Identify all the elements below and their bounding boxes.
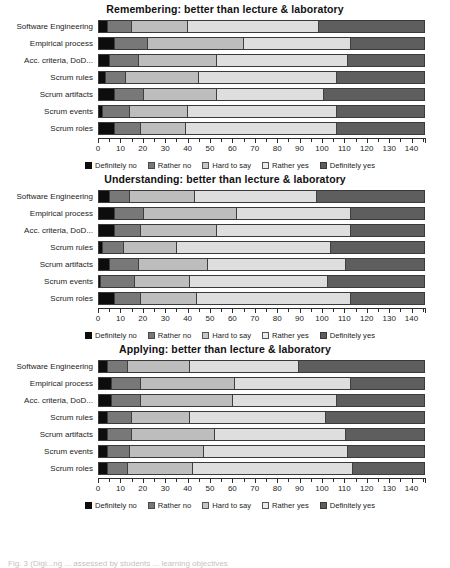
legend-item[interactable]: Definitely yes: [320, 161, 375, 170]
legend-item[interactable]: Definitely no: [85, 331, 137, 340]
legend-item[interactable]: Rather yes: [262, 501, 309, 510]
legend-item[interactable]: Definitely no: [85, 501, 137, 510]
stacked-bar[interactable]: [98, 445, 425, 458]
bar-row: Scrum roles: [0, 291, 450, 306]
axis-tick: [356, 478, 357, 482]
bar-segment-hard-to-say: [141, 395, 232, 406]
axis-tick: [98, 308, 99, 313]
bar-segment-hard-to-say: [139, 259, 208, 270]
stacked-bar[interactable]: [98, 275, 425, 288]
bar-segment-hard-to-say: [132, 412, 190, 423]
bar-segment-hard-to-say: [139, 55, 217, 66]
bar-row: Scrum roles: [0, 461, 450, 476]
bar-track: [98, 275, 428, 288]
bar-segment-rather-yes: [235, 378, 351, 389]
bar-row: Scrum events: [0, 104, 450, 119]
legend-item[interactable]: Rather no: [148, 501, 191, 510]
stacked-bar[interactable]: [98, 207, 425, 220]
axis-spacer: [0, 478, 98, 500]
bar-segment-definitely-yes: [328, 276, 424, 287]
stacked-bar[interactable]: [98, 360, 425, 373]
legend-label: Rather no: [158, 161, 191, 170]
axis-tick: [143, 478, 144, 483]
legend-item[interactable]: Hard to say: [202, 161, 251, 170]
stacked-bar[interactable]: [98, 37, 425, 50]
legend-item[interactable]: Definitely no: [85, 161, 137, 170]
stacked-bar[interactable]: [98, 105, 425, 118]
axis-tick: [367, 478, 368, 483]
axis-tick: [311, 138, 312, 142]
stacked-bar[interactable]: [98, 428, 425, 441]
legend-item[interactable]: Definitely yes: [320, 331, 375, 340]
axis-tick-label: 60: [228, 314, 237, 323]
category-label: Scrum artifacts: [0, 90, 98, 100]
bar-segment-definitely-yes: [319, 21, 424, 32]
stacked-bar[interactable]: [98, 190, 425, 203]
axis-tick: [400, 478, 401, 482]
bar-segment-definitely-no: [99, 429, 108, 440]
axis-tick-label: 50: [206, 144, 215, 153]
bar-segment-rather-yes: [199, 72, 337, 83]
axis-tick: [367, 138, 368, 143]
stacked-bar[interactable]: [98, 241, 425, 254]
legend-item[interactable]: Definitely yes: [320, 501, 375, 510]
axis-tick: [356, 308, 357, 312]
bar-segment-rather-no: [112, 378, 141, 389]
stacked-bar[interactable]: [98, 224, 425, 237]
category-label: Scrum artifacts: [0, 260, 98, 270]
axis-tick-label: 120: [360, 314, 373, 323]
x-axis: 0102030405060708090100110120130140: [0, 478, 450, 500]
axis-tick: [277, 308, 278, 313]
axis-tick: [176, 138, 177, 142]
bar-track: [98, 88, 428, 101]
axis-tick: [344, 308, 345, 313]
bar-segment-definitely-yes: [346, 259, 424, 270]
bar-row: Scrum artifacts: [0, 427, 450, 442]
legend-label: Definitely no: [95, 331, 137, 340]
bar-row: Scrum events: [0, 274, 450, 289]
axis-tick-label: 110: [338, 484, 351, 493]
bar-segment-rather-no: [112, 395, 141, 406]
axis-tick: [266, 138, 267, 142]
bar-segment-hard-to-say: [130, 191, 195, 202]
bar-segment-rather-no: [108, 429, 132, 440]
axis-tick: [378, 478, 379, 482]
legend-item[interactable]: Rather no: [148, 331, 191, 340]
axis-tick-label: 20: [138, 314, 147, 323]
legend-label: Definitely no: [95, 501, 137, 510]
axis-tick: [344, 478, 345, 483]
legend-item[interactable]: Hard to say: [202, 331, 251, 340]
axis-tick: [378, 138, 379, 142]
axis-tick-label: 110: [338, 314, 351, 323]
axis-line: [98, 478, 425, 479]
bar-segment-hard-to-say: [130, 106, 188, 117]
legend-item[interactable]: Rather yes: [262, 161, 309, 170]
stacked-bar[interactable]: [98, 292, 425, 305]
stacked-bar[interactable]: [98, 258, 425, 271]
stacked-bar[interactable]: [98, 122, 425, 135]
stacked-bar[interactable]: [98, 411, 425, 424]
bar-segment-definitely-yes: [351, 378, 424, 389]
stacked-bar[interactable]: [98, 462, 425, 475]
legend-item[interactable]: Rather no: [148, 161, 191, 170]
category-label: Empirical process: [0, 379, 98, 389]
stacked-bar[interactable]: [98, 71, 425, 84]
plot-area: Software EngineeringEmpirical processAcc…: [0, 359, 450, 476]
stacked-bar[interactable]: [98, 88, 425, 101]
legend-swatch-icon: [85, 502, 92, 509]
bar-segment-rather-yes: [217, 55, 348, 66]
stacked-bar[interactable]: [98, 54, 425, 67]
stacked-bar[interactable]: [98, 394, 425, 407]
bar-row: Acc. criteria, DoD...: [0, 53, 450, 68]
category-label: Scrum events: [0, 447, 98, 457]
stacked-bar[interactable]: [98, 20, 425, 33]
bar-segment-rather-yes: [233, 395, 338, 406]
bar-segment-rather-no: [108, 21, 132, 32]
legend-item[interactable]: Hard to say: [202, 501, 251, 510]
axis-tick: [378, 308, 379, 312]
axis-tick: [132, 308, 133, 312]
axis-tick: [389, 308, 390, 313]
legend-item[interactable]: Rather yes: [262, 331, 309, 340]
axis-tick: [322, 138, 323, 143]
stacked-bar[interactable]: [98, 377, 425, 390]
